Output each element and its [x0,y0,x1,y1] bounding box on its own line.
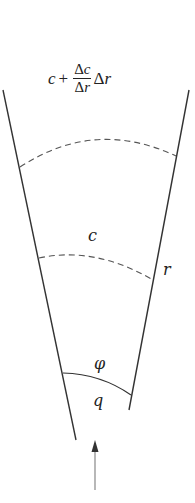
concentration-formula: c + Δc Δr Δr [48,62,111,95]
arrow-head-icon [92,440,99,452]
label-c: c [88,228,97,244]
delta-symbol: Δ [75,79,85,95]
fraction-denominator: Δr [75,79,91,95]
fraction-numerator: Δc [73,62,91,79]
label-phi: φ [94,356,105,372]
tail-variable: r [104,69,111,88]
delta-symbol: Δ [93,69,104,88]
denominator-variable: r [84,79,90,95]
delta-symbol: Δ [74,61,84,77]
lower-dashed-arc [39,255,153,280]
numerator-variable: c [84,61,91,77]
right-wall-line [129,90,189,410]
formula-tail: Δr [93,69,111,89]
formula-plus: + [59,69,69,89]
formula-fraction: Δc Δr [73,62,91,95]
label-r: r [163,262,171,278]
left-wall-line [3,90,76,440]
label-q: q [93,393,103,409]
formula-c: c [48,69,56,89]
upper-dashed-arc [20,139,176,167]
